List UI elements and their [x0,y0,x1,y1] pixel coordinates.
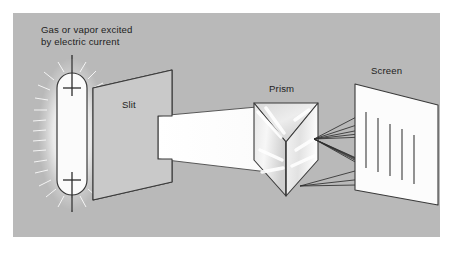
label-prism: Prism [269,83,294,95]
label-slit: Slit [122,99,136,111]
label-screen: Screen [371,65,402,77]
triangular-prism [254,103,318,196]
label-gas-source: Gas or vapor excited by electric current [41,24,133,49]
figure-canvas: Gas or vapor excited by electric current… [0,0,453,267]
gas-discharge-tube [57,55,87,212]
collimated-light-beam [158,106,268,172]
projection-screen [355,84,438,205]
